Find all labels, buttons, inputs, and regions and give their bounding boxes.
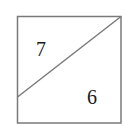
split-square-diagram: 7 6 xyxy=(0,0,124,126)
square-outline xyxy=(18,17,122,124)
diagonal-line xyxy=(18,17,122,98)
region-label-lower: 6 xyxy=(87,86,97,108)
region-label-upper: 7 xyxy=(36,38,46,60)
